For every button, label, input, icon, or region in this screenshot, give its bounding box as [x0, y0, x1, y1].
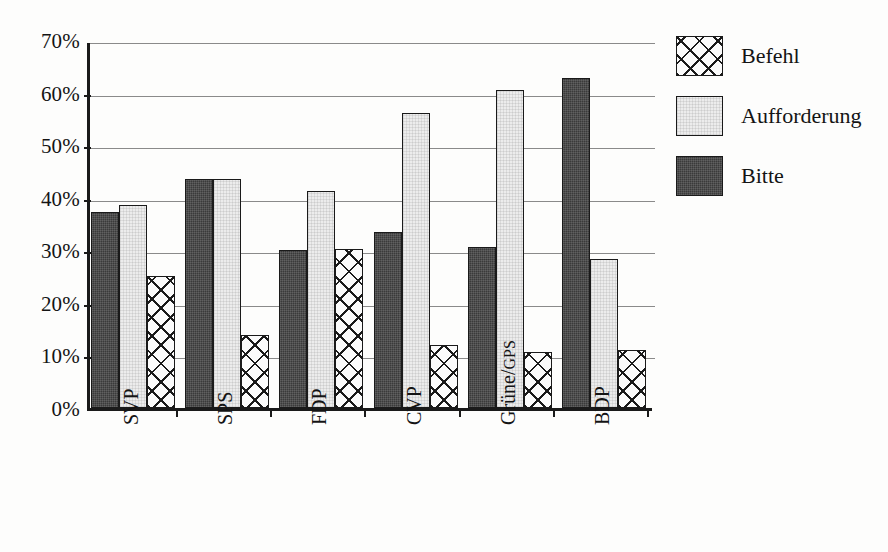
- bar-sps-aufforderung: [213, 179, 241, 408]
- bar-cvp-befehl: [430, 345, 458, 408]
- y-axis-tick-label: 70%: [4, 31, 80, 52]
- bar-grnegps-befehl: [524, 352, 552, 408]
- y-axis-tick-label: 40%: [4, 189, 80, 210]
- x-axis-tick-mark: [553, 408, 555, 417]
- x-axis-label-svp: SVP: [121, 388, 141, 425]
- legend-item-befehl[interactable]: Befehl: [676, 30, 886, 82]
- bar-bdp-bitte: [562, 78, 590, 408]
- bar-cvp-aufforderung: [402, 113, 430, 408]
- x-axis-tick-mark: [459, 408, 461, 417]
- y-axis-tick-mark: [84, 357, 91, 359]
- y-axis-tick-mark: [84, 200, 91, 202]
- y-axis-tick-mark: [84, 95, 91, 97]
- bar-fdp-bitte: [279, 250, 307, 408]
- x-axis-label-grnegps: Grüne/GPS: [498, 340, 520, 425]
- legend-label: Aufforderung: [741, 105, 862, 127]
- bar-svp-befehl: [147, 276, 175, 408]
- bar-fdp-aufforderung: [307, 191, 335, 408]
- legend: BefehlAufforderungBitte: [676, 30, 886, 210]
- y-axis-tick-mark: [84, 305, 91, 307]
- legend-swatch-aufforderung-icon: [676, 96, 723, 136]
- bar-grnegps-bitte: [468, 247, 496, 408]
- x-axis-tick-mark: [176, 408, 178, 417]
- legend-item-aufforderung[interactable]: Aufforderung: [676, 90, 886, 142]
- y-axis-tick-label: 50%: [4, 136, 80, 157]
- bar-cvp-bitte: [374, 232, 402, 408]
- bar-bdp-befehl: [618, 350, 646, 408]
- bar-fdp-befehl: [335, 249, 363, 408]
- y-axis-tick-label: 20%: [4, 294, 80, 315]
- bar-sps-befehl: [241, 335, 269, 408]
- legend-item-bitte[interactable]: Bitte: [676, 150, 886, 202]
- y-axis-tick-label: 0%: [4, 399, 80, 420]
- x-axis-label-bdp: BDP: [592, 386, 612, 425]
- bar-chart: 70%60%50%40%30%20%10%0% SVPSPSFDPCVPGrün…: [0, 0, 888, 552]
- x-axis-tick-mark: [270, 408, 272, 417]
- y-axis-tick-mark: [84, 147, 91, 149]
- y-axis-tick-mark: [84, 252, 91, 254]
- x-axis-tick-mark: [647, 408, 649, 417]
- legend-swatch-befehl-icon: [676, 36, 723, 76]
- x-axis-label-sps: SPS: [215, 392, 235, 425]
- bar-svp-aufforderung: [119, 205, 147, 408]
- plot-area: [87, 43, 652, 411]
- y-axis: 70%60%50%40%30%20%10%0%: [0, 0, 80, 552]
- x-axis-label-fdp: FDP: [309, 388, 329, 425]
- bar-svp-bitte: [91, 212, 119, 408]
- legend-label: Befehl: [741, 45, 800, 67]
- x-axis-label-cvp: CVP: [404, 386, 424, 425]
- bar-sps-bitte: [185, 179, 213, 408]
- y-axis-tick-label: 60%: [4, 84, 80, 105]
- y-axis-tick-label: 30%: [4, 241, 80, 262]
- legend-swatch-bitte-icon: [676, 156, 723, 196]
- x-axis-tick-mark: [364, 408, 366, 417]
- y-axis-tick-label: 10%: [4, 346, 80, 367]
- gridline-70: [90, 43, 655, 44]
- legend-label: Bitte: [741, 165, 784, 187]
